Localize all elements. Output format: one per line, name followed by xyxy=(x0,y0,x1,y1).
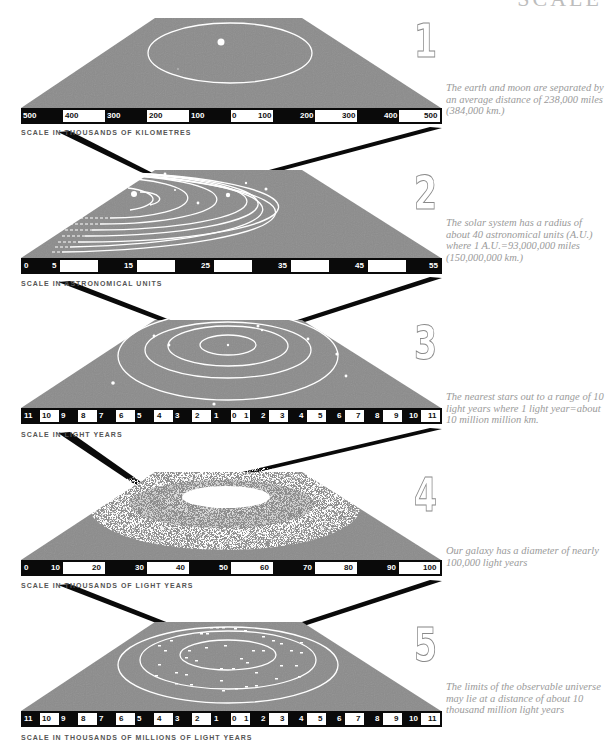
galaxy-spiral xyxy=(90,466,360,550)
scale-3-label: 3 xyxy=(175,410,179,422)
panel-4-scale-caption: SCALE IN THOUSANDS OF LIGHT YEARS xyxy=(21,582,194,589)
scale-1-label: 200 xyxy=(149,110,162,122)
scale-5-label: 8 xyxy=(375,713,379,725)
scale-3-label: 9 xyxy=(61,410,65,422)
panel-1-plate xyxy=(21,18,441,108)
scale-5-label: 1 xyxy=(214,713,218,725)
scale-4-label: 30 xyxy=(135,562,144,574)
panel-3-description: The nearest stars out to a range of 10 l… xyxy=(446,391,606,426)
scale-5-label: 4 xyxy=(299,713,303,725)
panel-4-description: Our galaxy has a diameter of nearly 100,… xyxy=(446,545,606,568)
scale-1-label: 200 xyxy=(300,110,313,122)
scale-4-label: 50 xyxy=(219,562,228,574)
scale-5-label: 2 xyxy=(261,713,265,725)
panel-5-description: The limits of the observable universe ma… xyxy=(446,681,606,716)
scale-3-label: 8 xyxy=(375,410,379,422)
scale-5-label: 6 xyxy=(337,713,341,725)
scale-4-label: 80 xyxy=(344,562,353,574)
scale-5-label: 11 xyxy=(24,713,32,725)
panel-3-plate xyxy=(21,312,441,408)
scale-1-label: 400 xyxy=(384,110,397,122)
panel-1-description: The earth and moon are separated by an a… xyxy=(446,82,606,117)
scale-3-label: 5 xyxy=(318,410,322,422)
scale-1-label: 300 xyxy=(342,110,355,122)
scale-3-label: 6 xyxy=(337,410,341,422)
panel-1-number: 1 xyxy=(414,18,437,64)
panel-5-number: 5 xyxy=(414,622,437,668)
scale-2-label: 5 xyxy=(52,260,56,272)
earth-icon xyxy=(218,39,225,46)
scale-3-label: 4 xyxy=(299,410,303,422)
scale-3-label: 7 xyxy=(356,410,360,422)
panel-2-number: 2 xyxy=(414,170,437,216)
scale-3-label: 10 xyxy=(409,410,418,422)
scale-3-label: 11 xyxy=(428,410,436,422)
scale-5-label: 7 xyxy=(356,713,360,725)
scale-diagram: SCALE xyxy=(0,0,608,753)
scale-4-label: 70 xyxy=(303,562,312,574)
panel-2-scale-caption: SCALE IN ASTRONOMICAL UNITS xyxy=(21,280,162,287)
scale-5-label: 9 xyxy=(61,713,65,725)
scale-1-label: 0 xyxy=(232,110,236,122)
scale-4-label: 90 xyxy=(387,562,396,574)
panel-3-number: 3 xyxy=(414,320,437,366)
scale-1-label: 500 xyxy=(424,110,437,122)
scale-3-label: 8 xyxy=(81,410,85,422)
scale-3-label: 7 xyxy=(99,410,103,422)
scale-5-label: 5 xyxy=(137,713,141,725)
scale-1-label: 500 xyxy=(23,110,36,122)
scale-4-label: 60 xyxy=(260,562,269,574)
panel-5-plate xyxy=(21,622,441,711)
panel-1-scale-bar: 500 400 300 200 100 0 100 200 300 400 50… xyxy=(21,108,442,124)
panel-5-scale-caption: SCALE IN THOUSANDS OF MILLIONS OF LIGHT … xyxy=(21,734,253,741)
scale-4-label: 0 xyxy=(24,562,28,574)
scale-2-label: 25 xyxy=(201,260,210,272)
scale-5-label: 8 xyxy=(81,713,85,725)
panel-2-description: The solar system has a radius of about 4… xyxy=(446,217,606,263)
panel-4-plate xyxy=(21,466,441,560)
scale-2-label: 15 xyxy=(124,260,133,272)
scale-5-label: 2 xyxy=(195,713,199,725)
scale-4-label: 10 xyxy=(51,562,60,574)
scale-5-label: 9 xyxy=(394,713,398,725)
scale-1-label: 300 xyxy=(107,110,120,122)
scale-3-label: 4 xyxy=(157,410,161,422)
scale-3-label: 3 xyxy=(280,410,284,422)
scale-1-label: 400 xyxy=(65,110,78,122)
scale-3-label: 2 xyxy=(261,410,265,422)
scale-1-label: 100 xyxy=(191,110,204,122)
scale-5-label: 11 xyxy=(428,713,436,725)
scale-5-label: 3 xyxy=(280,713,284,725)
scale-5-label: 0 xyxy=(232,713,236,725)
scale-4-label: 20 xyxy=(92,562,101,574)
scale-3-label: 5 xyxy=(137,410,141,422)
panel-2-scale-bar: 0 5 15 25 35 45 55 xyxy=(21,258,442,274)
scale-3-label: 10 xyxy=(42,410,51,422)
scale-4-label: 100 xyxy=(423,562,436,574)
scale-5-label: 10 xyxy=(42,713,51,725)
scale-3-label: 1 xyxy=(244,410,248,422)
scale-5-label: 4 xyxy=(157,713,161,725)
scale-2-label: 45 xyxy=(355,260,364,272)
scale-2-label: 35 xyxy=(278,260,287,272)
scale-3-label: 9 xyxy=(394,410,398,422)
scale-3-label: 0 xyxy=(232,410,236,422)
panel-4-scale-bar: 0 10 20 30 40 50 60 70 80 90 100 xyxy=(21,560,442,576)
scale-5-label: 5 xyxy=(318,713,322,725)
scale-5-label: 7 xyxy=(99,713,103,725)
scale-2-label: 0 xyxy=(24,260,28,272)
scale-3-label: 11 xyxy=(24,410,32,422)
scale-4-label: 40 xyxy=(176,562,185,574)
scale-3-label: 2 xyxy=(195,410,199,422)
panel-2-plate xyxy=(21,170,441,258)
scale-5-label: 6 xyxy=(119,713,123,725)
scale-1-label: 100 xyxy=(258,110,271,122)
panel-3-scale-bar: 11 10 9 8 7 6 5 4 3 2 1 0 1 2 3 4 5 6 7 … xyxy=(21,408,442,424)
panel-5-scale-bar: 11 10 9 8 7 6 5 4 3 2 1 0 1 2 3 4 5 6 7 … xyxy=(21,711,442,727)
scale-3-label: 6 xyxy=(119,410,123,422)
panel-4-number: 4 xyxy=(414,472,437,518)
panel-1-scale-caption: SCALE IN THOUSANDS OF KILOMETRES xyxy=(21,129,191,136)
scale-5-label: 3 xyxy=(175,713,179,725)
scale-3-label: 1 xyxy=(214,410,218,422)
panel-3-scale-caption: SCALE IN LIGHT YEARS xyxy=(21,431,123,438)
